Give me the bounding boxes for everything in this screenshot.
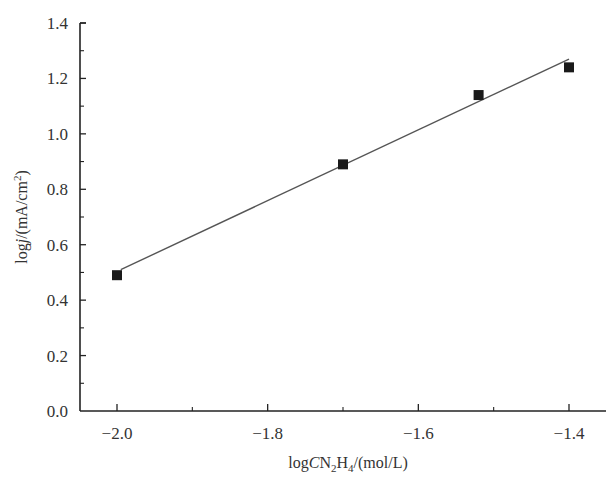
y-tick-label: 0.8 [47, 180, 68, 199]
chart: 0.00.20.40.60.81.01.21.4−2.0−1.8−1.6−1.4… [0, 0, 615, 485]
square-marker [112, 270, 122, 280]
y-tick-label: 0.6 [47, 236, 68, 255]
x-axis-label: logCN2H4/(mol/L) [288, 454, 407, 474]
x-tick-label: −1.6 [403, 424, 434, 443]
y-tick-label: 0.2 [47, 347, 68, 366]
data-points [112, 62, 574, 280]
y-tick-label: 1.4 [47, 14, 69, 33]
x-tick-label: −2.0 [102, 424, 133, 443]
y-tick-label: 1.0 [47, 125, 68, 144]
axes: 0.00.20.40.60.81.01.21.4−2.0−1.8−1.6−1.4 [47, 14, 606, 443]
x-tick-label: −1.8 [252, 424, 283, 443]
square-marker [338, 159, 348, 169]
y-tick-label: 0.0 [47, 402, 68, 421]
square-marker [564, 62, 574, 72]
square-marker [474, 90, 484, 100]
y-tick-label: 1.2 [47, 69, 68, 88]
y-tick-label: 0.4 [47, 291, 69, 310]
axis-labels: logCN2H4/(mol/L)logj/(mA/cm2) [11, 170, 408, 474]
y-axis-label: logj/(mA/cm2) [11, 170, 31, 264]
x-tick-label: −1.4 [554, 424, 585, 443]
